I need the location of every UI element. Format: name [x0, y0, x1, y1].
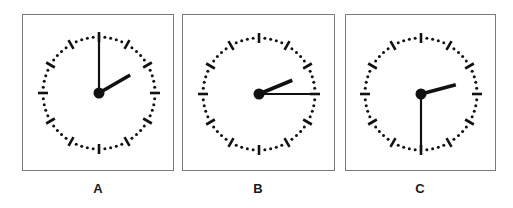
panel-label-b: B	[238, 181, 278, 196]
clock-hub	[254, 89, 265, 100]
clock-panel-c	[345, 14, 496, 171]
panel-label-c: C	[400, 181, 440, 196]
clock-face-icon	[23, 15, 175, 172]
clock-hub	[416, 89, 427, 100]
clock-panel-a	[22, 14, 174, 171]
clock-panel-b	[182, 14, 335, 171]
clock-face-icon	[183, 15, 336, 172]
clock-face-icon	[346, 15, 497, 172]
clock-hub	[94, 88, 105, 99]
panel-label-a: A	[78, 181, 118, 196]
